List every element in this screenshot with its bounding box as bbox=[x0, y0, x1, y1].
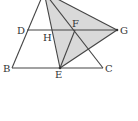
shaded-triangle-aeg bbox=[44, 0, 117, 68]
label-e: E bbox=[55, 69, 62, 80]
point-g-dot bbox=[116, 29, 119, 32]
label-b: B bbox=[3, 63, 10, 74]
geometry-diagram: D H F G B E C bbox=[0, 0, 138, 121]
label-d: D bbox=[17, 25, 25, 36]
label-c: C bbox=[105, 63, 113, 74]
label-f: F bbox=[72, 18, 79, 29]
label-g: G bbox=[120, 25, 128, 36]
label-h: H bbox=[43, 32, 52, 43]
